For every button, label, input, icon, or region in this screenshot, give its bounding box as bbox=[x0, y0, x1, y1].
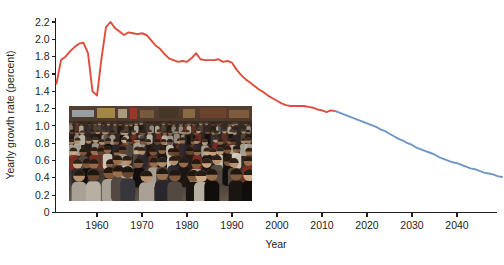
y-tick-label: 1.2 bbox=[35, 102, 50, 114]
x-tick-label: 1970 bbox=[130, 219, 154, 231]
x-tick-label: 1980 bbox=[175, 219, 199, 231]
x-tick-label: 2010 bbox=[310, 219, 334, 231]
x-axis-ticks: 196019701980199020002010202020302040 bbox=[85, 213, 469, 232]
x-tick-label: 2030 bbox=[400, 219, 424, 231]
y-tick-label: 0.8 bbox=[35, 137, 50, 149]
y-tick-label: 1.8 bbox=[35, 50, 50, 62]
y-tick-label: 1.0 bbox=[35, 120, 50, 132]
series-estimates bbox=[57, 22, 336, 112]
x-tick-label: 2020 bbox=[355, 219, 379, 231]
y-axis-title: Yearly growth rate (percent) bbox=[4, 50, 16, 179]
y-tick-label: 0 bbox=[44, 206, 50, 218]
y-tick-label: 1.6 bbox=[35, 68, 50, 80]
y-tick-label: 2.0 bbox=[35, 33, 50, 45]
y-tick-label: 2.2 bbox=[35, 16, 50, 28]
x-tick-label: 1960 bbox=[85, 219, 109, 231]
x-tick-label: 1990 bbox=[220, 219, 244, 231]
crowd-photo-image bbox=[69, 106, 252, 201]
x-tick-label: 2000 bbox=[265, 219, 289, 231]
y-axis-ticks: 00.20.40.60.81.01.21.41.61.82.02.2 bbox=[35, 16, 56, 219]
x-axis-title: Year bbox=[265, 238, 287, 250]
series-projection bbox=[336, 111, 503, 177]
crowd-photo-inset bbox=[69, 106, 252, 201]
y-tick-label: 0.4 bbox=[35, 171, 50, 183]
y-tick-label: 0.2 bbox=[35, 189, 50, 201]
y-tick-label: 1.4 bbox=[35, 85, 50, 97]
chart-figure: 00.20.40.60.81.01.21.41.61.82.02.2 19601… bbox=[0, 0, 504, 265]
y-tick-label: 0.6 bbox=[35, 154, 50, 166]
x-tick-label: 2040 bbox=[445, 219, 469, 231]
